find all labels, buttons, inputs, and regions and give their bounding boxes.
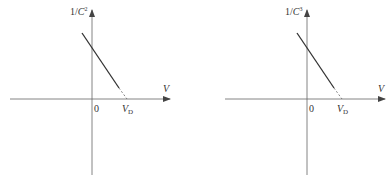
left-solid-line — [82, 33, 119, 88]
right-dashed-extrapolation — [334, 88, 342, 99]
left-origin-label: 0 — [94, 104, 99, 114]
left-x-axis-label: V — [163, 84, 169, 94]
left-intercept-label: VD — [122, 104, 133, 116]
right-origin-label: 0 — [309, 104, 314, 114]
left-dashed-extrapolation — [119, 88, 127, 99]
right-solid-line — [297, 33, 334, 88]
left-figure — [10, 10, 170, 175]
right-figure — [225, 10, 385, 175]
right-intercept-label: VD — [337, 104, 348, 116]
right-y-axis-label: 1/C3 — [285, 6, 302, 17]
diagram-canvas — [0, 0, 391, 181]
left-y-axis-label: 1/C2 — [70, 6, 87, 17]
right-x-axis-label: V — [378, 84, 384, 94]
